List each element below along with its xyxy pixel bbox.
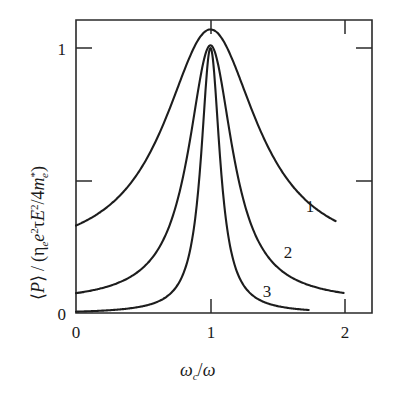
y-axis-slash: /: [28, 266, 48, 271]
y-axis-eta: η: [28, 247, 48, 256]
y-axis-E: E: [28, 210, 48, 222]
svg-text:ωc/ω: ωc/ω: [180, 360, 215, 382]
ytick-label-0: 0: [58, 305, 67, 324]
xtick-label-1: 1: [207, 323, 216, 342]
curve-series-2: [76, 45, 344, 293]
svg-text:⟨P⟩/(ηee2τE2/4m*e): ⟨P⟩/(ηee2τE2/4m*e): [28, 166, 50, 300]
xtick-label-0: 0: [72, 323, 81, 342]
curve-annotation-2: 2: [284, 243, 293, 262]
y-axis-paren-close: ): [28, 166, 49, 172]
xtick-label-2: 2: [341, 323, 350, 342]
figure-container: 0 1 2 1 0 1 2 3 ωc/ω ⟨P⟩/(ηee2τE2/4m*e): [0, 0, 398, 395]
y-axis-four: 4: [28, 190, 48, 199]
ytick-label-1: 1: [58, 40, 67, 59]
y-axis-bracket-close: ⟩: [28, 275, 48, 282]
y-axis-e: e: [28, 234, 48, 242]
x-axis-omega: ω: [180, 360, 193, 380]
y-axis-title: ⟨P⟩/(ηee2τE2/4m*e): [28, 166, 50, 300]
curve-series-3: [76, 48, 309, 312]
axis-ticks: [76, 20, 372, 313]
curve-annotation-3: 3: [263, 282, 272, 301]
x-axis-title: ωc/ω: [180, 360, 215, 382]
y-axis-tau: τ: [28, 221, 48, 228]
plot-frame: [76, 20, 372, 313]
y-axis-bracket-open: ⟨: [28, 293, 48, 300]
x-axis-omega-2: ω: [203, 360, 216, 380]
y-axis-m: m: [28, 177, 48, 190]
curve-series-1: [76, 29, 336, 225]
data-curves: [76, 29, 344, 311]
curve-annotation-1: 1: [306, 197, 315, 216]
y-axis-m-subscript: e: [38, 173, 50, 178]
resonance-plot: 0 1 2 1 0 1 2 3 ωc/ω ⟨P⟩/(ηee2τE2/4m*e): [0, 0, 398, 395]
y-axis-P: P: [28, 282, 48, 294]
